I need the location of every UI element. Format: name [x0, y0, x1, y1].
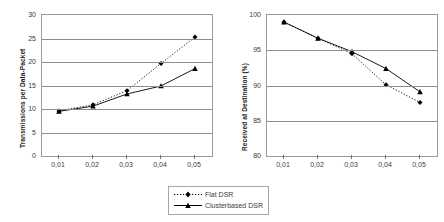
legend-item-flat-dsr: Flat DSR: [173, 189, 263, 200]
y-axis-tick-label: 15: [6, 81, 36, 88]
gridline: [42, 133, 212, 134]
x-axis-tick-label: 0,03: [334, 161, 368, 168]
x-axis-tick-label: 0,05: [177, 161, 211, 168]
x-axis-tick-label: 0,05: [402, 161, 436, 168]
chart-legend: Flat DSR Clusterbased DSR: [168, 186, 269, 215]
x-axis-tick-mark: [126, 155, 127, 159]
x-axis-tick-mark: [194, 155, 195, 159]
chart-panel-transmissions: Transmissions per Data-Packet 0510152025…: [0, 0, 222, 180]
x-axis-tick-label: 0,03: [109, 161, 143, 168]
x-axis-tick-label: 0,04: [368, 161, 402, 168]
x-axis-tick-label: 0,04: [143, 161, 177, 168]
gridline: [42, 86, 212, 87]
gridline: [267, 121, 437, 122]
series-line: [59, 37, 195, 111]
x-axis-tick-mark: [58, 155, 59, 159]
figure-two-line-charts: Transmissions per Data-Packet 0510152025…: [0, 0, 444, 222]
gridline: [267, 50, 437, 51]
series-line: [284, 22, 420, 92]
y-axis-tick-label: 5: [6, 128, 36, 135]
y-axis-tick-label: 100: [231, 11, 261, 18]
y-axis-tick-label: 95: [231, 46, 261, 53]
x-axis-tick-mark: [92, 155, 93, 159]
legend-label-clusterbased-dsr: Clusterbased DSR: [203, 202, 263, 209]
legend-item-clusterbased-dsr: Clusterbased DSR: [173, 200, 263, 211]
x-axis-tick-mark: [419, 155, 420, 159]
data-point-marker: [418, 100, 423, 105]
gridline: [267, 86, 437, 87]
x-axis-tick-mark: [317, 155, 318, 159]
plot-area-right: [266, 14, 438, 157]
y-axis-tick-label: 0: [6, 152, 36, 159]
chart-panel-received: Received at Destination (%) 808590951000…: [222, 0, 444, 180]
y-axis-tick-label: 90: [231, 81, 261, 88]
y-axis-tick-label: 30: [6, 11, 36, 18]
data-point-marker: [383, 66, 389, 71]
gridline: [42, 62, 212, 63]
x-axis-tick-mark: [385, 155, 386, 159]
x-axis-tick-label: 0,02: [300, 161, 334, 168]
legend-label-flat-dsr: Flat DSR: [203, 191, 233, 198]
y-axis-title-right: Received at Destination (%): [241, 63, 248, 151]
x-axis-tick-mark: [351, 155, 352, 159]
data-point-marker: [417, 89, 423, 94]
data-point-marker: [192, 66, 198, 71]
series-line: [284, 22, 420, 102]
y-axis-tick-label: 85: [231, 116, 261, 123]
y-axis-tick-label: 25: [6, 34, 36, 41]
gridline: [42, 39, 212, 40]
x-axis-tick-mark: [283, 155, 284, 159]
x-axis-tick-label: 0,02: [75, 161, 109, 168]
x-axis-tick-label: 0,01: [266, 161, 300, 168]
y-axis-tick-label: 20: [6, 58, 36, 65]
legend-key-solid-triangle-icon: [173, 200, 203, 211]
legend-key-dotted-diamond-icon: [173, 189, 203, 200]
plot-area-left: [41, 14, 213, 157]
x-axis-tick-label: 0,01: [41, 161, 75, 168]
gridline: [42, 109, 212, 110]
y-axis-tick-label: 10: [6, 105, 36, 112]
x-axis-tick-mark: [160, 155, 161, 159]
y-axis-tick-label: 80: [231, 152, 261, 159]
